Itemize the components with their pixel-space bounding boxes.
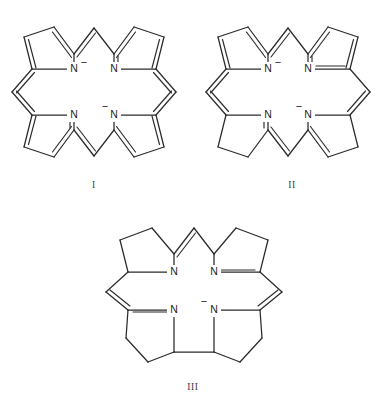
nitrogen-label-top-left: N [70, 62, 78, 74]
structure-ii-atom-labels: N − N N N − [261, 56, 315, 122]
nitrogen-label-bottom-right: N [304, 108, 312, 120]
structure-iii-atom-labels: N N N N − [167, 265, 221, 317]
nitrogen-label-top-left: N [264, 62, 272, 74]
structure-ii-bonds [206, 27, 370, 157]
nitrogen-label-top-right: N [110, 62, 118, 74]
structure-i-caption: I [64, 180, 124, 190]
structure-contracted-iii: N N N N − [96, 206, 292, 382]
structure-ii-caption: II [262, 180, 322, 190]
nitrogen-label-bottom-right: N [110, 108, 118, 120]
nitrogen-label-bottom-left: N [264, 108, 272, 120]
structure-i-bonds [12, 27, 176, 157]
structure-iii-drawing: N N N N − [96, 206, 292, 382]
charge-label-bottom-right: − [296, 100, 302, 112]
nitrogen-label-bottom-left: N [70, 108, 78, 120]
nitrogen-label-top-right: N [210, 265, 218, 277]
structure-iii-bonds [106, 228, 282, 362]
structure-porphyrin-i: N − N N N − [8, 6, 180, 178]
charge-label-bottom-right: − [201, 295, 207, 307]
structure-i-atom-labels: N − N N N − [67, 56, 121, 122]
charge-label-bottom-right: − [102, 100, 108, 112]
nitrogen-label-bottom-left: N [170, 303, 178, 315]
charge-label-top-left: − [81, 56, 87, 68]
charge-label-top-left: − [275, 56, 281, 68]
structure-iii-caption: III [163, 382, 223, 392]
structure-i-drawing: N − N N N − [8, 6, 180, 178]
structure-ii-drawing: N − N N N − [202, 6, 374, 178]
nitrogen-label-top-right: N [304, 62, 312, 74]
structure-porphyrin-ii: N − N N N − [202, 6, 374, 178]
chemical-structures-figure: N − N N N − I [0, 0, 388, 406]
nitrogen-label-bottom-right: N [210, 303, 218, 315]
nitrogen-label-top-left: N [170, 265, 178, 277]
